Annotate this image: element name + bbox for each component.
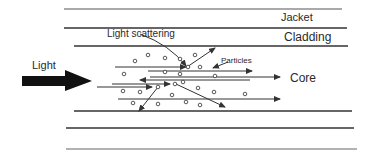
fiber-diagram (0, 0, 373, 155)
core-label: Core (290, 72, 316, 84)
light-scattering-label: Light scattering (107, 29, 175, 39)
cladding-label: Cladding (284, 31, 331, 43)
particles-label: Particles (221, 57, 252, 65)
light-label: Light (32, 60, 56, 71)
jacket-label: Jacket (281, 12, 313, 23)
light-input-arrow (22, 70, 92, 91)
